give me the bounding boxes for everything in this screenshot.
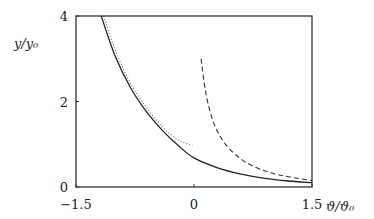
y-tick-label: 4 (60, 9, 68, 24)
series-dashed-line (201, 59, 312, 181)
x-axis-label: ϑ/ϑ₀ (326, 199, 355, 214)
x-tick-label: −1.5 (60, 197, 92, 212)
x-tick-label: 1.5 (302, 197, 323, 212)
x-axis-ticks: −1.501.5 (60, 184, 322, 212)
y-tick-label: 2 (60, 95, 68, 110)
line-chart: −1.501.5 024 y/y₀ ϑ/ϑ₀ (0, 0, 374, 219)
plot-area (101, 16, 312, 183)
series-dotted-line (104, 16, 193, 146)
y-tick-label: 0 (60, 180, 68, 195)
y-axis-label: y/y₀ (13, 36, 39, 51)
plot-frame (76, 16, 312, 187)
x-tick-label: 0 (190, 197, 198, 212)
